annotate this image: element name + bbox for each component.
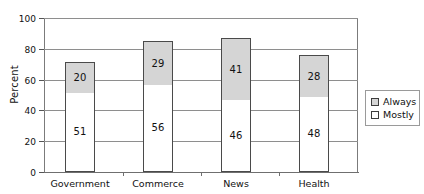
x-tick-mark-1 bbox=[123, 172, 124, 176]
bar-segment-always-commerce[interactable]: 29 bbox=[143, 41, 173, 86]
y-tick-label-40: 40 bbox=[6, 107, 36, 116]
legend-item-mostly[interactable]: Mostly bbox=[371, 108, 415, 121]
x-tick-mark-2 bbox=[201, 172, 202, 176]
bar-value-mostly-health: 48 bbox=[307, 129, 320, 139]
bar-group-news[interactable]: 41 46 bbox=[221, 38, 251, 172]
bar-segment-mostly-government[interactable]: 51 bbox=[65, 93, 95, 172]
stacked-bar-chart: Percent 0 20 40 60 80 100 20 51 bbox=[0, 0, 424, 194]
gridline-80 bbox=[44, 49, 358, 50]
y-tick-label-20: 20 bbox=[6, 138, 36, 147]
y-tick-label-100: 100 bbox=[6, 15, 36, 24]
chart-legend: Always Mostly bbox=[365, 90, 420, 126]
legend-swatch-always-icon bbox=[371, 98, 379, 106]
bar-value-always-commerce: 29 bbox=[151, 59, 164, 69]
legend-item-always[interactable]: Always bbox=[371, 95, 415, 108]
bar-group-commerce[interactable]: 29 56 bbox=[143, 41, 173, 172]
bar-value-mostly-news: 46 bbox=[229, 131, 242, 141]
bar-value-always-health: 28 bbox=[307, 72, 320, 82]
plot-border-left bbox=[44, 18, 45, 172]
plot-area: 20 51 29 56 41 46 28 bbox=[44, 18, 358, 172]
legend-label-mostly: Mostly bbox=[383, 110, 414, 120]
legend-label-always: Always bbox=[383, 97, 416, 107]
bar-value-always-news: 41 bbox=[229, 65, 242, 75]
y-tick-label-60: 60 bbox=[6, 77, 36, 86]
plot-border-right bbox=[357, 18, 358, 172]
bar-segment-always-government[interactable]: 20 bbox=[65, 62, 95, 94]
y-tick-label-0: 0 bbox=[6, 169, 36, 178]
x-axis-label-health: Health bbox=[259, 179, 369, 189]
bar-value-always-government: 20 bbox=[73, 73, 86, 83]
y-tick-label-80: 80 bbox=[6, 46, 36, 55]
bar-segment-mostly-news[interactable]: 46 bbox=[221, 100, 251, 172]
gridline-100 bbox=[44, 18, 358, 19]
bar-segment-mostly-health[interactable]: 48 bbox=[299, 97, 329, 172]
bar-segment-mostly-commerce[interactable]: 56 bbox=[143, 85, 173, 172]
bar-value-mostly-government: 51 bbox=[73, 127, 86, 137]
bar-group-health[interactable]: 28 48 bbox=[299, 55, 329, 172]
bar-value-mostly-commerce: 56 bbox=[151, 123, 164, 133]
legend-swatch-mostly-icon bbox=[371, 111, 379, 119]
bar-segment-always-health[interactable]: 28 bbox=[299, 55, 329, 98]
x-tick-mark-3 bbox=[279, 172, 280, 176]
bar-segment-always-news[interactable]: 41 bbox=[221, 38, 251, 101]
bar-group-government[interactable]: 20 51 bbox=[65, 62, 95, 172]
